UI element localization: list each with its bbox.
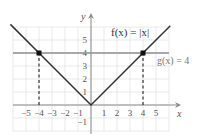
y-tick-label: 1 (83, 87, 88, 97)
y-tick-label: −1 (77, 117, 87, 127)
y-axis-label: y (80, 11, 86, 22)
x-tick-label: −2 (60, 108, 70, 118)
chart-plot: −5−4−3−2−112345−112345 f(x) = |x| g(x) =… (0, 0, 208, 137)
x-axis-label: x (176, 108, 182, 119)
x-tick-label: 2 (115, 108, 120, 118)
x-tick-label: 5 (154, 108, 159, 118)
x-tick-label: −3 (47, 108, 57, 118)
x-tick-label: −5 (21, 108, 31, 118)
y-tick-label: 3 (83, 61, 88, 71)
tick-labels: −5−4−3−2−112345−112345 (21, 35, 159, 127)
f-label: f(x) = |x| (111, 26, 149, 39)
y-tick-label: 5 (83, 35, 88, 45)
x-tick-label: 3 (128, 108, 133, 118)
intersection-point (141, 51, 146, 56)
y-tick-label: 2 (83, 74, 88, 84)
x-tick-label: −4 (34, 108, 44, 118)
x-tick-label: 4 (141, 108, 146, 118)
g-label: g(x) = 4 (157, 55, 189, 67)
intersection-point (37, 51, 42, 56)
x-tick-label: 1 (102, 108, 107, 118)
